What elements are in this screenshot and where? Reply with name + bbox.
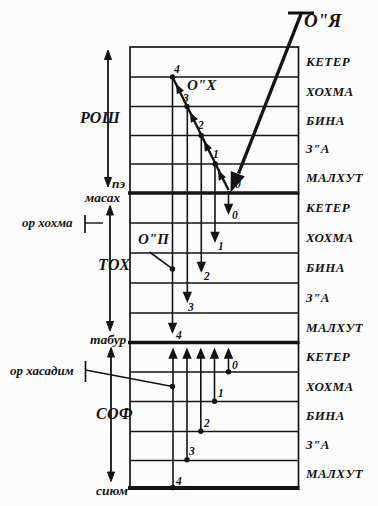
arrow-head bbox=[225, 205, 232, 214]
sefira-toch-malchut: МАЛХУТ bbox=[306, 321, 363, 335]
arrow-head-down bbox=[105, 178, 112, 188]
diagram-canvas bbox=[0, 0, 378, 506]
toch-level-2: 2 bbox=[204, 270, 210, 282]
arrow-head bbox=[190, 112, 198, 123]
direct-light-arrow bbox=[231, 13, 315, 193]
partzuf-diagram: О"Я О"Х О"П ор хохма ор хасадим РОШ ТОХ … bbox=[0, 0, 378, 506]
arrow-head-up bbox=[107, 206, 114, 216]
arrow-head-up bbox=[108, 348, 115, 358]
tabur-label: табур bbox=[90, 333, 126, 347]
arrow-shaft bbox=[239, 14, 302, 174]
arrow-head bbox=[204, 141, 212, 152]
arrow-head bbox=[170, 350, 177, 359]
or-hasadim-label: ор хасадим bbox=[10, 364, 74, 378]
arrow-head bbox=[211, 350, 218, 359]
level-dot bbox=[226, 369, 231, 374]
section-sof-label: СОФ bbox=[96, 406, 133, 423]
inner-light-pointer bbox=[150, 252, 176, 272]
sefira-toch-bina: БИНА bbox=[306, 261, 345, 275]
sof-level-1: 1 bbox=[218, 387, 224, 399]
level-dot bbox=[212, 399, 217, 404]
arrow-head bbox=[169, 324, 176, 333]
masach-label: масах bbox=[85, 191, 120, 205]
sefira-rosh-hochma: ХОХМА bbox=[306, 85, 354, 99]
grid-frame bbox=[130, 47, 299, 488]
sium-label: сиюм bbox=[96, 484, 128, 498]
arrow-head bbox=[184, 350, 191, 359]
toch-descending-arrows bbox=[169, 77, 232, 332]
sefira-toch-keter: КЕТЕР bbox=[306, 201, 350, 215]
rosh-level-3: 3 bbox=[183, 92, 189, 104]
sefira-rosh-keter: КЕТЕР bbox=[306, 55, 350, 69]
arrow-head bbox=[218, 170, 226, 181]
rosh-level-4: 4 bbox=[174, 63, 180, 75]
rosh-level-0: 0 bbox=[235, 178, 241, 190]
sefira-rosh-malchut: МАЛХУТ bbox=[306, 171, 363, 185]
arrow-head-down bbox=[108, 472, 115, 482]
sefira-toch-hochma: ХОХМА bbox=[306, 231, 354, 245]
sefira-sof-hochma: ХОХМА bbox=[306, 380, 354, 394]
toch-level-1: 1 bbox=[218, 240, 224, 252]
inner-light-label: О"П bbox=[138, 232, 169, 248]
sefira-sof-bina: БИНА bbox=[306, 409, 345, 423]
sefira-rosh-za: З"А bbox=[306, 142, 330, 156]
grid bbox=[128, 47, 300, 488]
sefira-sof-malchut: МАЛХУТ bbox=[306, 467, 363, 481]
arrow-head bbox=[197, 350, 204, 359]
rosh-level-2: 2 bbox=[198, 119, 204, 131]
direct-light-label: О"Я bbox=[304, 11, 341, 31]
sof-level-3: 3 bbox=[189, 445, 195, 457]
toch-level-4: 4 bbox=[176, 329, 182, 341]
toch-level-3: 3 bbox=[188, 301, 194, 313]
level-dot bbox=[170, 485, 175, 490]
or-hochma-tick bbox=[85, 215, 103, 233]
or-hochma-label: ор хохма bbox=[22, 216, 73, 230]
sof-level-0: 0 bbox=[232, 359, 238, 371]
level-dot bbox=[198, 429, 203, 434]
sof-level-4: 4 bbox=[176, 475, 182, 487]
returning-light-label: О"Х bbox=[187, 78, 216, 94]
sefira-toch-za: З"А bbox=[306, 291, 330, 305]
arrow-head bbox=[184, 293, 191, 302]
pointer-dot bbox=[170, 384, 175, 389]
pointer-dot bbox=[170, 266, 175, 271]
sefira-sof-keter: КЕТЕР bbox=[306, 350, 350, 364]
arrow-head-up bbox=[105, 50, 112, 60]
sefira-sof-za: З"А bbox=[306, 438, 330, 452]
sof-level-2: 2 bbox=[204, 417, 210, 429]
level-dot bbox=[184, 457, 189, 462]
sefira-rosh-bina: БИНА bbox=[306, 114, 345, 128]
arrow-head bbox=[225, 350, 232, 359]
arrow-head-down bbox=[107, 322, 114, 332]
section-toch-label: ТОХ bbox=[98, 257, 130, 274]
section-rosh-label: РОШ bbox=[80, 110, 120, 127]
sof-ascending-arrows bbox=[170, 350, 233, 491]
toch-level-0: 0 bbox=[232, 209, 238, 221]
rosh-level-1: 1 bbox=[213, 148, 219, 160]
pointer-line bbox=[150, 252, 173, 269]
